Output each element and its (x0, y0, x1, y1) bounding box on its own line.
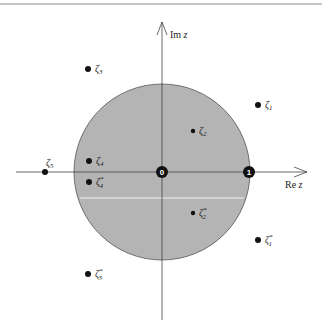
label-zeta1-conj: ζ*1 (265, 233, 273, 248)
point-zeta3-conj (85, 271, 91, 277)
imag-axis-label: Im z (170, 29, 188, 40)
point-zeta5 (42, 169, 48, 175)
complex-plane-diagram: Re z Im z 0 1 ζ1 ζ2 ζ3 ζ4 ζ5 ζ*4 ζ*2 ζ*1… (0, 0, 322, 334)
point-zeta2-conj (191, 211, 195, 215)
label-zeta3-conj: ζ*3 (95, 267, 103, 282)
label-zeta1: ζ1 (265, 99, 273, 112)
point-zeta1-conj (255, 237, 261, 243)
label-zeta5: ζ5 (46, 157, 54, 170)
point-zeta4-conj (86, 179, 92, 185)
point-zeta4 (86, 158, 92, 164)
real-axis-label: Re z (285, 179, 303, 190)
point-zeta3 (85, 66, 91, 72)
point-zeta1 (255, 102, 261, 108)
origin-label: 0 (160, 168, 165, 177)
label-zeta3: ζ3 (95, 63, 103, 76)
one-label: 1 (247, 168, 252, 177)
point-zeta2 (191, 129, 195, 133)
